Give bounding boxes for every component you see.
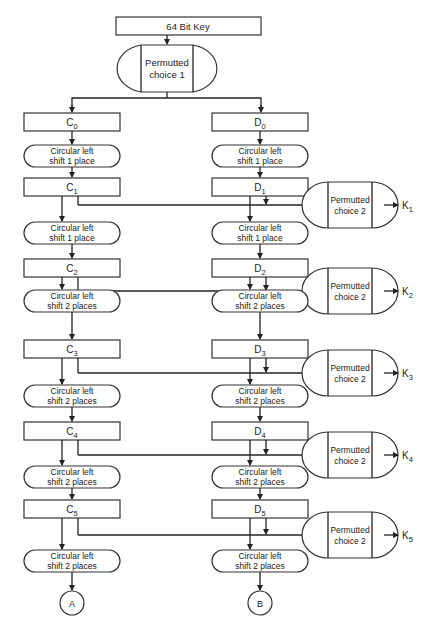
pc1-line2: choice 1 xyxy=(149,69,184,80)
pc2-line1: Permutted xyxy=(330,195,369,205)
shift-left-2-line1: Circular left xyxy=(51,223,95,233)
pc2-line1: Permutted xyxy=(330,445,369,455)
shift-left-2: Circular leftshift 1 place xyxy=(24,222,120,244)
register-c2: C2 xyxy=(24,259,120,277)
shift-right-5: Circular leftshift 2 places xyxy=(212,466,308,488)
connector-b-label: B xyxy=(257,599,263,609)
permuted-choice-2-5: Permuttedchoice 2 xyxy=(302,512,398,558)
pc2-line1: Permutted xyxy=(330,363,369,373)
register-d0: D0 xyxy=(212,113,308,131)
register-c4: C4 xyxy=(24,422,120,440)
pc2-line1: Permutted xyxy=(330,281,369,291)
shift-right-2-line1: Circular left xyxy=(239,223,283,233)
shift-left-3-line1: Circular left xyxy=(51,291,95,301)
shift-right-1: Circular leftshift 1 place xyxy=(212,145,308,167)
shift-left-4-line1: Circular left xyxy=(51,386,95,396)
shift-right-6-line2: shift 2 places xyxy=(235,561,285,571)
shift-right-3: Circular leftshift 2 places xyxy=(212,290,308,312)
pc2-line1: Permutted xyxy=(330,525,369,535)
permuted-choice-1: Permutted choice 1 xyxy=(117,45,217,92)
shift-left-6-line1: Circular left xyxy=(51,551,95,561)
permuted-choice-2-2: Permuttedchoice 2 xyxy=(302,268,398,314)
shift-left-3-line2: shift 2 places xyxy=(47,301,97,311)
shift-left-1-line2: shift 1 place xyxy=(49,156,95,166)
shift-right-4-line1: Circular left xyxy=(239,386,283,396)
shift-right-6: Circular leftshift 2 places xyxy=(212,550,308,572)
shift-right-6-line1: Circular left xyxy=(239,551,283,561)
shift-right-4: Circular leftshift 2 places xyxy=(212,385,308,407)
shift-right-1-line1: Circular left xyxy=(239,146,283,156)
shift-left-5: Circular leftshift 2 places xyxy=(24,466,120,488)
des-key-schedule-diagram: 64 Bit Key Permutted choice 1 C0D0Circul… xyxy=(0,0,437,631)
shift-right-3-line2: shift 2 places xyxy=(235,301,285,311)
subkey-label-1: K1 xyxy=(402,200,413,214)
shift-left-3: Circular leftshift 2 places xyxy=(24,290,120,312)
shift-left-6-line2: shift 2 places xyxy=(47,561,97,571)
subkey-label-4: K4 xyxy=(402,450,413,464)
split-line xyxy=(72,98,261,111)
shift-right-2-line2: shift 1 place xyxy=(237,233,283,243)
shift-right-1-line2: shift 1 place xyxy=(237,156,283,166)
key-box: 64 Bit Key xyxy=(116,17,261,35)
shift-right-5-line2: shift 2 places xyxy=(235,477,285,487)
schedule-rows: C0D0Circular leftshift 1 placeCircular l… xyxy=(24,113,413,615)
permuted-choice-2-4: Permuttedchoice 2 xyxy=(302,432,398,478)
subkey-label-2: K2 xyxy=(402,286,413,300)
subkey-label-5: K5 xyxy=(402,530,413,544)
shift-left-4: Circular leftshift 2 places xyxy=(24,385,120,407)
register-d1: D1 xyxy=(212,178,308,196)
shift-left-4-line2: shift 2 places xyxy=(47,396,97,406)
shift-left-6: Circular leftshift 2 places xyxy=(24,550,120,572)
pc2-line2: choice 2 xyxy=(334,536,366,546)
register-c3: C3 xyxy=(24,340,120,358)
shift-left-5-line2: shift 2 places xyxy=(47,477,97,487)
connector-b: B xyxy=(248,591,272,615)
permuted-choice-2-1: Permuttedchoice 2 xyxy=(302,182,398,228)
shift-left-5-line1: Circular left xyxy=(51,467,95,477)
register-c0: C0 xyxy=(24,113,120,131)
shift-right-5-line1: Circular left xyxy=(239,467,283,477)
register-d4: D4 xyxy=(212,422,308,440)
shift-right-3-line1: Circular left xyxy=(239,291,283,301)
shift-right-4-line2: shift 2 places xyxy=(235,396,285,406)
register-c5: C5 xyxy=(24,500,120,518)
shift-right-2: Circular leftshift 1 place xyxy=(212,222,308,244)
pc2-line2: choice 2 xyxy=(334,374,366,384)
key-box-label: 64 Bit Key xyxy=(166,21,210,32)
register-d2: D2 xyxy=(212,259,308,277)
register-d3: D3 xyxy=(212,340,308,358)
shift-left-1: Circular leftshift 1 place xyxy=(24,145,120,167)
pc1-line1: Permutted xyxy=(145,57,189,68)
pc2-line2: choice 2 xyxy=(334,292,366,302)
register-d5: D5 xyxy=(212,500,308,518)
shift-left-1-line1: Circular left xyxy=(51,146,95,156)
pc2-line2: choice 2 xyxy=(334,456,366,466)
permuted-choice-2-3: Permuttedchoice 2 xyxy=(302,350,398,396)
subkey-label-3: K3 xyxy=(402,368,413,382)
register-c1: C1 xyxy=(24,178,120,196)
shift-left-2-line2: shift 1 place xyxy=(49,233,95,243)
connector-a-label: A xyxy=(69,599,75,609)
pc2-line2: choice 2 xyxy=(334,206,366,216)
connector-a: A xyxy=(60,591,84,615)
